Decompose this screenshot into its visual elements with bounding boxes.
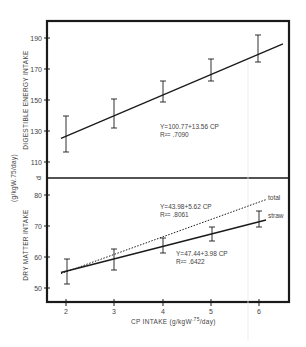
straw-regression-line	[61, 220, 266, 273]
straw-equation: Y=47.44+3.98 CP	[176, 250, 228, 257]
upper-ytick-label: 110	[31, 159, 42, 166]
upper-y-axis-title: DIGESTIBLE ENERGY INTAKE	[22, 50, 29, 150]
upper-r-squared: R²= .7090	[160, 131, 189, 138]
lower-ytick-label: 70	[34, 223, 42, 230]
xtick-label: 4	[161, 308, 165, 315]
total-r-squared: R²= .8061	[160, 211, 189, 218]
upper-ytick-label: 190	[30, 35, 42, 42]
upper-ytick-label: 170	[30, 66, 42, 73]
xtick-label: 2	[64, 308, 68, 315]
upper-ytick-label: 150	[30, 97, 42, 104]
straw-r-squared: R²= .6422	[176, 258, 205, 265]
upper-equation: Y=100.77+13.56 CP	[160, 123, 219, 130]
total-equation: Y=43.98+5.62 CP	[160, 203, 212, 210]
total-series-label: total	[268, 194, 281, 201]
plot-frame	[47, 21, 289, 302]
lower-ytick-label: 60	[34, 254, 42, 261]
straw-series-label: straw	[268, 212, 284, 219]
y-axis-units: (g/kgW.75/day)	[10, 154, 18, 202]
xtick-label: 6	[257, 308, 261, 315]
lower-ytick-label: 80	[34, 192, 42, 199]
axis-break-mark: d	[35, 176, 42, 180]
lower-error-bars	[64, 211, 262, 284]
lower-ytick-label: 50	[34, 285, 42, 292]
xtick-label: 3	[112, 308, 116, 315]
lower-y-axis-title: DRY MATTER INTAKE	[22, 209, 29, 281]
upper-ytick-label: 130	[30, 128, 42, 135]
xtick-label: 5	[209, 308, 213, 315]
x-axis-title: CP INTAKE (g/kgW.75/day)	[131, 316, 216, 326]
chart-figure: 190 170 150 130 110 d 80 70 60 50 2 3 4 …	[0, 0, 306, 347]
